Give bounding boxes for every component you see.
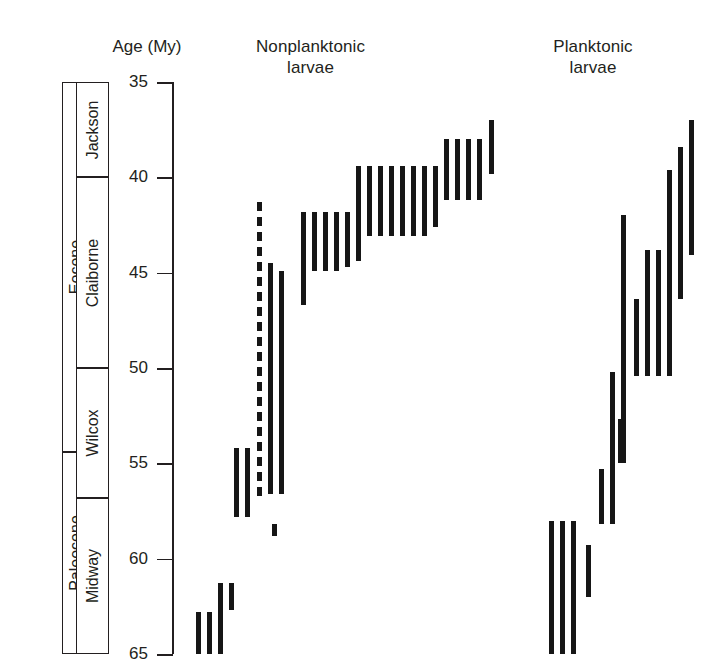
range-bar-nonplanktonic-14 (334, 212, 339, 271)
range-bar-planktonic-4 (586, 545, 591, 596)
range-bar-planktonic-5 (599, 469, 604, 524)
range-bar-nonplanktonic-24 (444, 139, 449, 200)
range-bar-nonplanktonic-19 (389, 166, 394, 237)
range-bar-nonplanktonic-10 (279, 271, 284, 494)
stratigraphic-column: EocenePaleoceneJacksonClaiborneWilcoxMid… (0, 0, 120, 670)
range-bar-nonplanktonic-15 (345, 212, 350, 267)
tick-mark (157, 273, 173, 275)
stage-label: Claiborne (85, 238, 101, 306)
range-bar-planktonic-2 (560, 521, 565, 654)
tick-label: 45 (104, 264, 148, 281)
tick-label: 35 (104, 73, 148, 90)
range-bar-nonplanktonic-18 (378, 166, 383, 237)
column-header-nonplanktonic: Nonplanktonic larvae (218, 36, 403, 78)
range-bar-nonplanktonic-9 (268, 263, 273, 494)
range-bar-nonplanktonic-11 (301, 212, 306, 305)
tick-mark (157, 82, 173, 84)
range-bar-nonplanktonic-23 (433, 166, 438, 227)
range-bar-nonplanktonic-2 (207, 612, 212, 654)
tick-mark (157, 368, 173, 370)
tick-mark (157, 177, 173, 179)
range-bar-planktonic-12 (667, 170, 672, 376)
tick-label: 60 (104, 550, 148, 567)
range-bar-nonplanktonic-22 (422, 166, 427, 237)
range-bar-nonplanktonic-17 (367, 166, 372, 237)
stage-label: Midway (85, 549, 101, 603)
range-bar-planktonic-14 (689, 120, 694, 255)
range-bar-nonplanktonic-4 (229, 583, 234, 610)
range-bar-nonplanktonic-16 (356, 166, 361, 261)
range-bar-planktonic-3 (571, 521, 576, 654)
range-bar-nonplanktonic-7 (245, 448, 250, 517)
column-header-planktonic: Planktonic larvae (508, 36, 678, 78)
range-bar-nonplanktonic-13 (323, 212, 328, 271)
tick-mark (157, 654, 173, 656)
range-bar-planktonic-10 (645, 250, 650, 376)
tick-label: 50 (104, 359, 148, 376)
range-bar-planktonic-11 (656, 250, 661, 376)
range-bar-nonplanktonic-26 (466, 139, 471, 200)
stage-wilcox: Wilcox (76, 368, 109, 498)
range-bar-nonplanktonic-12 (312, 212, 317, 271)
range-bar-nonplanktonic-21 (411, 166, 416, 237)
range-bar-nonplanktonic-28 (489, 120, 494, 173)
range-bar-planktonic-6 (610, 372, 615, 525)
range-bar-nonplanktonic-5 (272, 524, 277, 535)
range-bar-nonplanktonic-6 (234, 448, 239, 517)
stratigraphic-range-chart: Nonplanktonic larvae Planktonic larvae A… (0, 0, 716, 670)
tick-mark (157, 463, 173, 465)
stage-label: Wilcox (85, 409, 101, 456)
range-bar-nonplanktonic-27 (477, 139, 482, 200)
range-bar-planktonic-13 (678, 147, 683, 300)
stage-midway: Midway (76, 498, 109, 654)
tick-mark (157, 559, 173, 561)
range-bar-nonplanktonic-20 (400, 166, 405, 237)
tick-label: 40 (104, 168, 148, 185)
range-bar-nonplanktonic-1 (196, 612, 201, 654)
stage-jackson: Jackson (76, 82, 109, 177)
range-bar-planktonic-1 (549, 521, 554, 654)
range-bar-planktonic-9 (634, 299, 639, 375)
tick-label: 55 (104, 454, 148, 471)
range-bar-nonplanktonic-3 (218, 583, 223, 654)
range-bar-planktonic-8 (621, 215, 626, 463)
range-bar-nonplanktonic-25 (455, 139, 460, 200)
range-bar-nonplanktonic-8 (257, 202, 262, 498)
stage-label: Jackson (85, 100, 101, 159)
tick-label: 65 (104, 645, 148, 662)
